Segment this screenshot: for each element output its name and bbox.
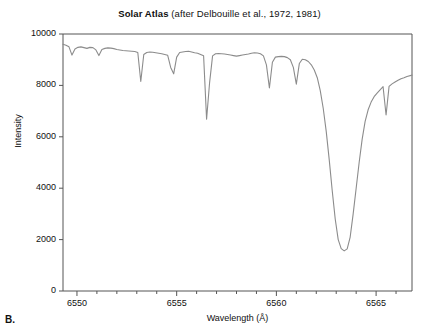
- plot-canvas: [0, 0, 439, 335]
- x-tick-label: 6555: [152, 298, 202, 308]
- y-tick-label: 2000: [10, 234, 56, 244]
- x-tick-label: 6565: [351, 298, 401, 308]
- y-tick-label: 10000: [10, 28, 56, 38]
- figure-panel: Solar Atlas (after Delbouille et al., 19…: [0, 0, 439, 335]
- tick-marks-group: [59, 34, 396, 296]
- chart-title-bold: Solar Atlas: [118, 8, 168, 19]
- spectrum-line: [63, 44, 412, 251]
- chart-title: Solar Atlas (after Delbouille et al., 19…: [0, 8, 439, 19]
- y-tick-label: 4000: [10, 182, 56, 192]
- x-tick-label: 6550: [52, 298, 102, 308]
- y-tick-label: 6000: [10, 131, 56, 141]
- panel-letter: B.: [5, 314, 15, 325]
- chart-title-rest: (after Delbouille et al., 1972, 1981): [169, 8, 321, 19]
- x-tick-label: 6560: [251, 298, 301, 308]
- y-tick-label: 8000: [10, 79, 56, 89]
- y-tick-label: 0: [10, 285, 56, 295]
- x-axis-label: Wavelength (Å): [63, 313, 412, 323]
